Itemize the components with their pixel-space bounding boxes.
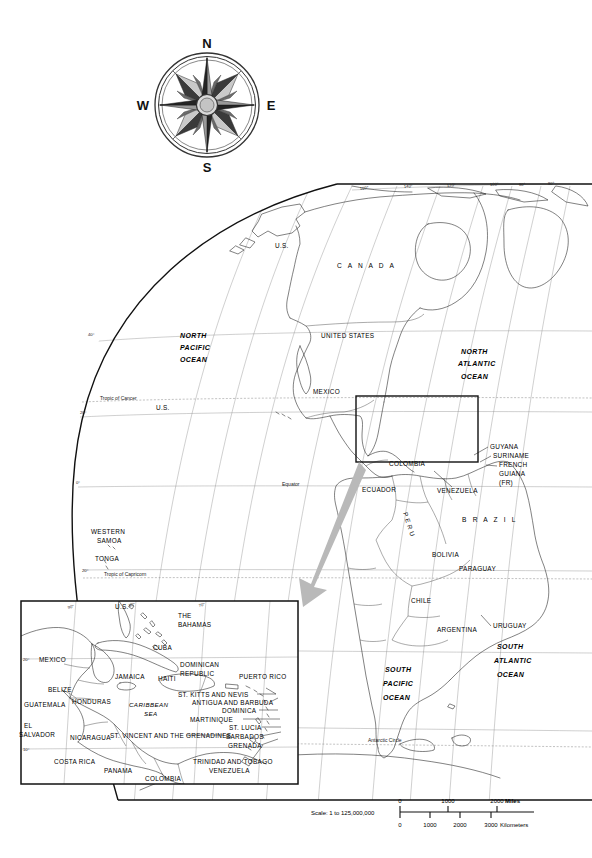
label-french-guiana-line2: GUIANA — [499, 470, 526, 477]
inset-label-martinique: MARTINIQUE — [190, 716, 233, 724]
map-page: N S E W — [0, 0, 592, 858]
scale-km-tick-2000: 2000 — [453, 822, 467, 828]
tropic-of-capricorn-label: Tropic of Capricorn — [104, 571, 147, 577]
south-atlantic-ocean-label-line2: ATLANTIC — [493, 657, 532, 664]
scale-km-tick-1000: 1000 — [423, 822, 437, 828]
scale-miles-tick-2000: 2000 — [490, 798, 504, 804]
inset-label-puerto-rico: PUERTO RICO — [239, 673, 286, 680]
label-french-guiana-line1: FRENCH — [499, 461, 528, 468]
inset-label-st-kitts-and-nevis: ST. KITTS AND NEVIS — [178, 691, 249, 698]
label-suriname: SURINAME — [493, 452, 529, 459]
latitude-label-20n: 20° — [80, 410, 87, 415]
north-pacific-ocean-label-line3: OCEAN — [180, 356, 208, 363]
inset-map: 90° 80° 70° 20° 10° U.S. THE BAHAMAS CUB… — [19, 601, 298, 784]
label-us-hawaii: U.S. — [156, 404, 170, 411]
inset-label-the-bahamas-line2: BAHAMAS — [178, 621, 211, 628]
scale-miles-unit: Miles — [505, 798, 521, 804]
inset-label-jamaica: JAMAICA — [115, 673, 145, 680]
tropic-of-cancer-label: Tropic of Cancer — [100, 395, 137, 401]
label-guyana: GUYANA — [490, 443, 519, 450]
longitude-label-120: 120° — [447, 182, 456, 188]
north-atlantic-ocean-label-line2: ATLANTIC — [457, 360, 496, 367]
label-argentina: ARGENTINA — [437, 626, 477, 633]
north-atlantic-ocean-label-line3: OCEAN — [461, 373, 489, 380]
north-pacific-ocean-label-line2: PACIFIC — [180, 344, 211, 351]
longitude-label-90: 90° — [519, 182, 526, 187]
scale-km-unit: Kilometers — [500, 822, 528, 828]
north-pacific-ocean-label-line1: NORTH — [180, 332, 207, 339]
antarctic-circle-label: Antarctic Circle — [368, 737, 402, 743]
inset-label-antigua-and-barbuda: ANTIGUA AND BARBUDA — [192, 699, 274, 706]
inset-label-honduras: HONDURAS — [72, 698, 111, 705]
inset-label-caribbean-sea-line2: SEA — [144, 710, 158, 717]
inset-label-us: U.S. — [115, 603, 129, 610]
inset-label-st-lucia: ST. LUCIA — [229, 724, 262, 731]
south-pacific-ocean-label-line3: OCEAN — [383, 694, 411, 701]
inset-label-the-bahamas-line1: THE — [178, 612, 192, 619]
inset-label-guatemala: GUATEMALA — [24, 701, 66, 708]
label-western-samoa-line1: WESTERN — [91, 528, 125, 535]
label-paraguay: PARAGUAY — [459, 565, 496, 572]
inset-label-el-salvador-line1: EL — [24, 722, 33, 729]
inset-label-barbados: BARBADOS — [226, 733, 264, 740]
label-tonga: TONGA — [95, 555, 120, 562]
inset-label-mexico: MEXICO — [39, 656, 66, 663]
inset-label-panama: PANAMA — [104, 767, 133, 774]
label-brazil: B R A Z I L — [462, 516, 518, 523]
scale-caption: Scale: 1 to 125,000,000 — [311, 810, 375, 816]
map-canvas: N S E W — [0, 0, 592, 858]
equator-label: Equator — [282, 481, 300, 487]
south-atlantic-ocean-label-line1: SOUTH — [497, 643, 524, 650]
inset-label-trinidad-and-tobago: TRINIDAD AND TOBAGO — [193, 758, 273, 765]
label-western-samoa-line2: SAMOA — [97, 537, 122, 544]
latitude-label-0: 0° — [76, 480, 80, 485]
latitude-label-40n: 40° — [88, 332, 95, 337]
label-colombia: COLOMBIA — [389, 460, 426, 467]
inset-label-colombia: COLOMBIA — [145, 775, 182, 782]
scale-km-tick-3000: 3000 — [484, 822, 498, 828]
inset-label-costa-rica: COSTA RICA — [54, 758, 96, 765]
label-us-alaska: U.S. — [275, 242, 289, 249]
inset-label-belize: BELIZE — [48, 686, 72, 693]
scale-miles-tick-1000: 1000 — [441, 798, 455, 804]
inset-label-grenada: GRENADA — [228, 742, 262, 749]
compass-east-label: E — [267, 98, 276, 113]
label-bolivia: BOLIVIA — [432, 551, 459, 558]
south-atlantic-ocean-label-line3: OCEAN — [497, 671, 525, 678]
label-venezuela: VENEZUELA — [437, 487, 478, 494]
inset-label-caribbean-sea-line1: CARIBBEAN — [129, 701, 168, 708]
inset-label-dominica: DOMINICA — [222, 707, 257, 714]
inset-label-venezuela: VENEZUELA — [209, 767, 250, 774]
label-mexico: MEXICO — [313, 388, 340, 395]
longitude-label-80: 80° — [548, 181, 555, 186]
label-uruguay: URUGUAY — [493, 622, 527, 629]
compass-west-label: W — [137, 98, 150, 113]
inset-label-st-vincent-and-the-grenadines: ST. VINCENT AND THE GRENADINES — [110, 732, 231, 739]
inset-label-nicaragua: NICARAGUA — [70, 734, 111, 741]
south-pacific-ocean-label-line2: PACIFIC — [383, 680, 414, 687]
inset-latitude-label-10: 10° — [23, 747, 30, 752]
compass-south-label: S — [203, 160, 212, 175]
longitude-label-100: 100° — [490, 181, 499, 187]
label-ecuador: ECUADOR — [362, 486, 396, 493]
inset-label-cuba: CUBA — [153, 644, 172, 651]
inset-label-dominican-republic-line2: REPUBLIC — [180, 670, 214, 677]
compass-north-label: N — [202, 36, 211, 51]
label-french-guiana-line3: (FR) — [499, 479, 513, 487]
inset-latitude-label-20: 20° — [23, 657, 30, 662]
inset-label-haiti: HAITI — [158, 675, 176, 682]
longitude-label-140: 140° — [404, 183, 413, 189]
inset-label-el-salvador-line2: SALVADOR — [19, 731, 55, 738]
label-canada: C A N A D A — [337, 262, 396, 269]
latitude-label-20s: 20° — [82, 568, 89, 573]
north-atlantic-ocean-label-line1: NORTH — [461, 348, 488, 355]
south-pacific-ocean-label-line1: SOUTH — [385, 666, 412, 673]
label-united-states: UNITED STATES — [321, 332, 374, 339]
label-chile: CHILE — [411, 597, 431, 604]
inset-label-dominican-republic-line1: DOMINICAN — [180, 661, 219, 668]
